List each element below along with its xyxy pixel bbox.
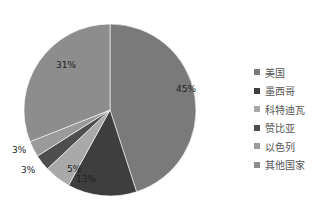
slice-label: 31% (56, 60, 76, 70)
legend-label: 其他国家 (265, 157, 305, 172)
legend-swatch-icon (254, 143, 260, 149)
chart-legend: 美国 墨西哥 科特迪瓦 赞比亚 以色列 其他国家 (254, 63, 305, 174)
legend-swatch-icon (254, 162, 260, 168)
pie-chart: 45%13%5%3%3%31% (0, 0, 220, 208)
slice-label: 13% (76, 174, 96, 184)
legend-label: 赞比亚 (265, 120, 295, 135)
legend-swatch-icon (254, 69, 260, 75)
slice-label: 3% (21, 165, 36, 175)
legend-item-israel: 以色列 (254, 137, 305, 156)
legend-label: 美国 (265, 65, 285, 80)
legend-swatch-icon (254, 106, 260, 112)
legend-item-other: 其他国家 (254, 156, 305, 175)
legend-item-zambia: 赞比亚 (254, 119, 305, 138)
legend-swatch-icon (254, 88, 260, 94)
legend-item-cote-divoire: 科特迪瓦 (254, 100, 305, 119)
legend-item-usa: 美国 (254, 63, 305, 82)
slice-label: 3% (12, 145, 27, 155)
legend-swatch-icon (254, 125, 260, 131)
slice-label: 5% (67, 164, 82, 174)
legend-item-mexico: 墨西哥 (254, 82, 305, 101)
slice-label: 45% (176, 84, 196, 94)
legend-label: 以色列 (265, 139, 295, 154)
legend-label: 科特迪瓦 (265, 102, 305, 117)
legend-label: 墨西哥 (265, 83, 295, 98)
